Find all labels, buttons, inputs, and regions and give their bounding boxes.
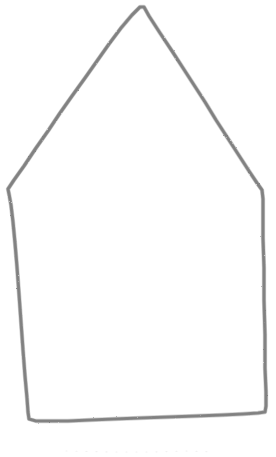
house-sketch-canvas (0, 0, 276, 457)
house-sketch-svg (0, 0, 276, 457)
sketch-background (0, 0, 276, 457)
